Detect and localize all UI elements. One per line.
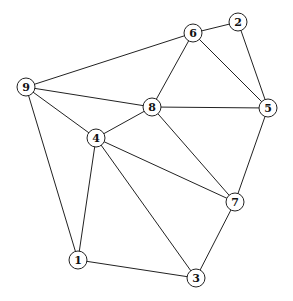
edge-4-1 — [78, 138, 96, 260]
edge-6-5 — [193, 33, 268, 108]
node-label: 3 — [192, 272, 200, 285]
node-8: 8 — [143, 98, 161, 116]
node-4: 4 — [87, 129, 105, 147]
edge-8-7 — [152, 107, 235, 202]
edge-9-1 — [26, 87, 78, 260]
node-label: 8 — [148, 101, 156, 114]
edge-2-5 — [238, 22, 268, 108]
node-label: 7 — [231, 196, 239, 209]
node-5: 5 — [259, 99, 277, 117]
edge-7-3 — [196, 202, 235, 278]
node-label: 2 — [234, 16, 242, 29]
edge-4-3 — [96, 138, 196, 278]
edges-layer — [26, 22, 268, 278]
edge-8-4 — [96, 107, 152, 138]
edge-9-8 — [26, 87, 152, 107]
edge-4-7 — [96, 138, 235, 202]
node-label: 5 — [264, 102, 272, 115]
node-label: 9 — [22, 81, 30, 94]
node-label: 6 — [189, 27, 197, 40]
node-label: 1 — [74, 254, 82, 267]
node-6: 6 — [184, 24, 202, 42]
edge-1-3 — [78, 260, 196, 278]
node-9: 9 — [17, 78, 35, 96]
node-3: 3 — [187, 269, 205, 287]
edge-5-7 — [235, 108, 268, 202]
node-7: 7 — [226, 193, 244, 211]
edge-8-5 — [152, 107, 268, 108]
node-1: 1 — [69, 251, 87, 269]
graph-diagram: 123456789 — [0, 0, 293, 301]
node-2: 2 — [229, 13, 247, 31]
node-label: 4 — [92, 132, 100, 145]
nodes-layer: 123456789 — [17, 13, 277, 287]
edge-9-4 — [26, 87, 96, 138]
